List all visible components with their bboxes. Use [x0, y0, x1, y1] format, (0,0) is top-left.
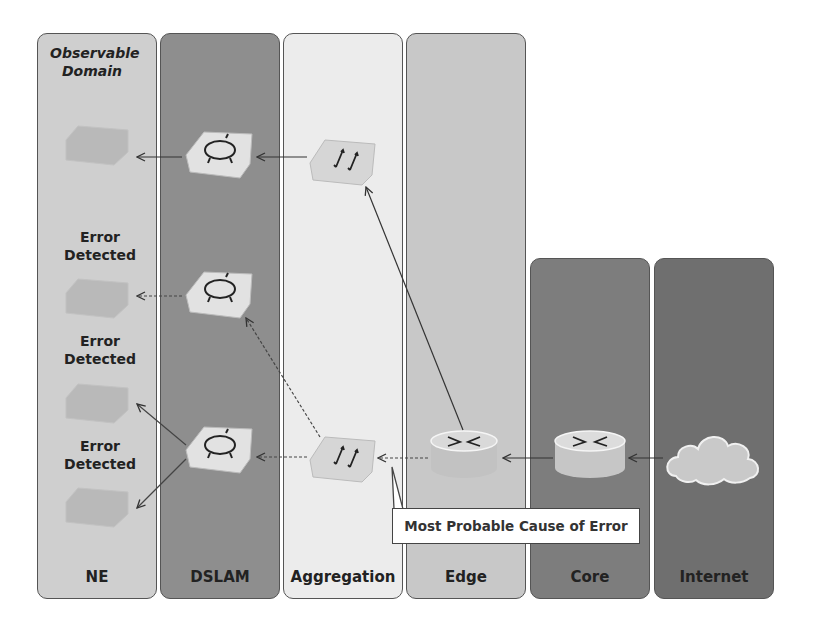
dslam-device-icon — [186, 427, 252, 473]
ne-device-icon — [66, 126, 128, 165]
most-probable-cause-callout: Most Probable Cause of Error — [392, 508, 640, 544]
aggregation-switch-icon — [310, 437, 375, 482]
callout-pointer — [392, 467, 403, 509]
callout-text: Most Probable Cause of Error — [404, 518, 627, 534]
arrow-agg-to-dslam-dashed — [246, 318, 320, 437]
arrow-edge-to-agg-top — [366, 187, 463, 430]
ne-device-icon — [66, 488, 128, 527]
dslam-device-icon — [186, 132, 252, 178]
edge-router-icon — [431, 431, 497, 478]
core-router-icon — [555, 431, 625, 478]
aggregation-switch-icon — [310, 140, 375, 185]
internet-cloud-icon — [667, 437, 758, 484]
ne-device-icon — [66, 279, 128, 318]
arrow-dslam-to-ne-3 — [137, 404, 186, 445]
dslam-device-icon — [186, 272, 252, 318]
ne-device-icon — [66, 384, 128, 423]
arrow-dslam-to-ne-4 — [137, 459, 186, 508]
